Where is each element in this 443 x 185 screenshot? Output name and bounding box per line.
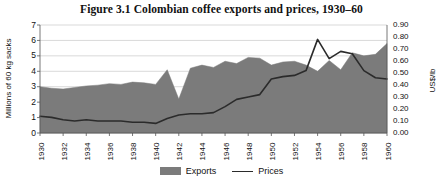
figure-container: Figure 3.1 Colombian coffee exports and … xyxy=(0,0,443,185)
exports-area-series xyxy=(40,44,387,133)
chart-plot-area xyxy=(0,0,443,185)
legend-line-swatch-icon xyxy=(232,171,253,172)
legend-item-exports: Exports xyxy=(160,166,217,176)
chart-legend: Exports Prices xyxy=(0,166,443,176)
legend-label-prices: Prices xyxy=(258,166,283,176)
legend-item-prices: Prices xyxy=(232,166,283,176)
legend-area-swatch-icon xyxy=(160,167,181,175)
legend-label-exports: Exports xyxy=(186,166,217,176)
